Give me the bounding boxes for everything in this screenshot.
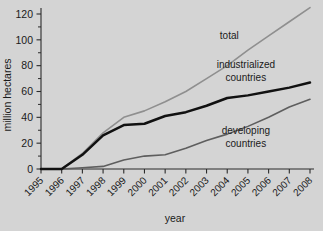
annotation-industrialized-1: industrialized — [217, 59, 275, 70]
annotation-industrialized-2: countries — [226, 72, 267, 83]
y-tick-label: 80 — [21, 59, 33, 71]
annotation-developing-2: countries — [226, 138, 267, 149]
y-tick-label: 100 — [15, 34, 33, 46]
y-axis-title: million hectares — [1, 59, 13, 132]
y-tick-label: 40 — [21, 111, 33, 123]
y-tick-label: 60 — [21, 85, 33, 97]
line-chart: 020406080100120 199519961997199819992000… — [0, 0, 323, 231]
chart-canvas: 020406080100120 199519961997199819992000… — [0, 0, 323, 231]
annotation-total: total — [220, 30, 239, 41]
y-tick-label: 20 — [21, 137, 33, 149]
x-axis-title: year — [165, 212, 186, 224]
annotation-developing-1: developing — [222, 125, 270, 136]
y-tick-label: 120 — [15, 8, 33, 20]
y-tick-label: 0 — [27, 163, 33, 175]
